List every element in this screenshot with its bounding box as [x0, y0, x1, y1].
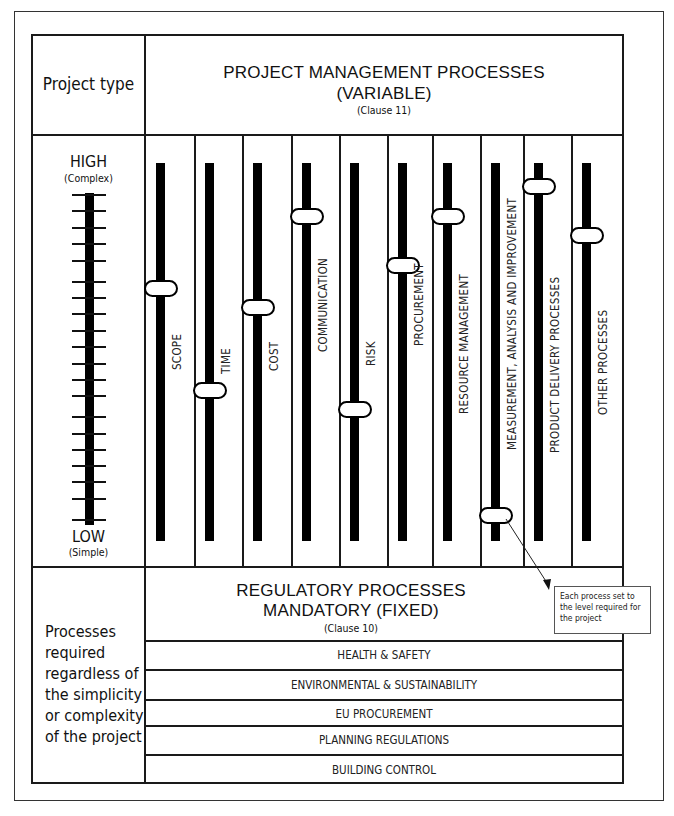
regulatory-row-eu-procurement: EU PROCUREMENT	[145, 707, 623, 721]
left-text-line: required	[45, 642, 145, 663]
left-text-line: Processes	[45, 621, 145, 642]
left-text-line: the simplicity	[45, 684, 145, 705]
left-text-line: regardless of	[45, 663, 145, 684]
regulatory-title: REGULATORY PROCESSES	[146, 581, 556, 601]
callout-note: Each process set to the level required f…	[554, 586, 651, 634]
regulatory-row-planning: PLANNING REGULATIONS	[145, 733, 623, 747]
regulatory-subtitle: MANDATORY (FIXED)	[146, 601, 556, 621]
left-text-line: of the project	[45, 726, 145, 747]
left-text-line: or complexity	[45, 705, 145, 726]
regulatory-left-text: Processes required regardless of the sim…	[45, 621, 145, 747]
regulatory-row-building-control: BUILDING CONTROL	[145, 763, 623, 777]
regulatory-row-health-safety: HEALTH & SAFETY	[145, 648, 623, 662]
regulatory-row-environmental: ENVIRONMENTAL & SUSTAINABILITY	[145, 678, 623, 692]
regulatory-clause: (Clause 10)	[146, 622, 556, 634]
